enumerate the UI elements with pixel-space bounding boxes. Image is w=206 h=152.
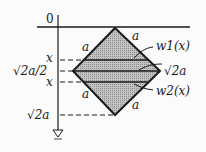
side-label-top-left: a <box>82 40 89 54</box>
mid-depth-label: √2a/2 <box>13 64 47 78</box>
cross-section-diagram: 0 x √2a/2 x √2a a a a a w1(x) √2a w2(x) <box>0 0 206 152</box>
x-upper-label: x <box>46 51 53 65</box>
w1-callout: w1(x) <box>156 39 190 53</box>
diagonal-callout: √2a <box>164 64 186 78</box>
side-label-bottom-left: a <box>82 87 89 101</box>
w2-callout: w2(x) <box>156 84 190 98</box>
x-lower-label: x <box>46 75 53 89</box>
side-label-bottom-right: a <box>132 98 139 112</box>
side-label-top-right: a <box>132 29 139 43</box>
bottom-depth-label: √2a <box>27 108 49 122</box>
axis-arrowhead-icon <box>53 130 63 137</box>
origin-label: 0 <box>46 12 54 26</box>
